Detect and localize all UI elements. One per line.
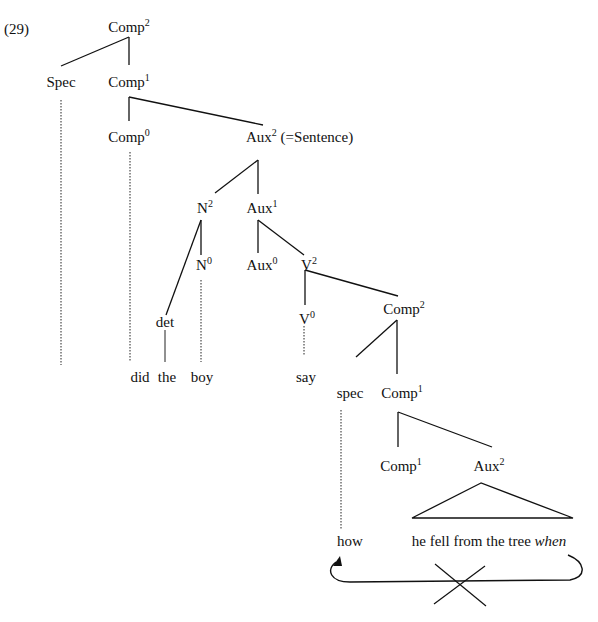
- node-label: Aux: [247, 200, 273, 216]
- bar-level: 0: [207, 255, 212, 266]
- node-label: Comp: [380, 458, 417, 474]
- arrowhead-icon: [333, 556, 342, 566]
- node-aux2-embedded: Aux2: [474, 458, 505, 474]
- node-aux2-sentence: Aux2 (=Sentence): [246, 129, 353, 145]
- node-label: Aux: [474, 458, 500, 474]
- word-did: did: [130, 369, 149, 385]
- bar-level: 0: [145, 127, 150, 138]
- bar-level: 2: [312, 255, 317, 266]
- node-aux0: Aux0: [247, 257, 278, 273]
- node-v2: V2: [301, 257, 317, 273]
- movement-arrow: [331, 555, 582, 582]
- bar-level: 1: [272, 198, 277, 209]
- word-say: say: [296, 369, 316, 385]
- node-label: Aux: [247, 257, 273, 273]
- node-note: (=Sentence): [277, 129, 353, 145]
- branch-line: [398, 412, 492, 447]
- node-det: det: [156, 314, 174, 330]
- node-label: N: [197, 200, 208, 216]
- node-label: V: [301, 257, 312, 273]
- embedded-clause-text: he fell from the tree when: [412, 533, 567, 549]
- node-label: Comp: [108, 129, 145, 145]
- node-label: Aux: [246, 129, 272, 145]
- node-n0: N0: [196, 257, 212, 273]
- bar-level: 2: [420, 299, 425, 310]
- node-label: Comp: [108, 19, 145, 35]
- node-n2: N2: [197, 200, 213, 216]
- node-spec-top: Spec: [46, 74, 75, 90]
- bar-level: 2: [208, 198, 213, 209]
- node-label: Comp: [108, 74, 145, 90]
- branch-line: [61, 37, 129, 66]
- bar-level: 0: [272, 255, 277, 266]
- syntax-tree-diagram: (29) Comp2 Spec Comp1 Comp0 Aux2 (=Sente…: [0, 0, 598, 622]
- bar-level: 1: [417, 456, 422, 467]
- word-how: how: [337, 533, 363, 549]
- example-number: (29): [4, 21, 29, 37]
- node-comp2-embedded: Comp2: [383, 301, 425, 317]
- bar-level: 1: [145, 72, 150, 83]
- node-spec-embedded: spec: [337, 385, 364, 401]
- clause-words: he fell from the tree: [412, 533, 535, 549]
- word-the: the: [158, 369, 176, 385]
- node-label: V: [299, 311, 310, 327]
- branch-line: [129, 97, 263, 125]
- branch-line: [258, 220, 304, 255]
- bar-level: 1: [418, 383, 423, 394]
- node-label: N: [196, 257, 207, 273]
- bar-level: 2: [145, 17, 150, 28]
- node-comp1-top: Comp1: [108, 74, 150, 90]
- node-v0: V0: [299, 311, 315, 327]
- node-comp1-lower: Comp1: [380, 458, 422, 474]
- node-comp0: Comp0: [108, 129, 150, 145]
- node-aux1: Aux1: [247, 200, 278, 216]
- bar-level: 0: [310, 309, 315, 320]
- node-label: Comp: [383, 301, 420, 317]
- branch-line: [356, 320, 397, 357]
- node-comp1-embedded: Comp1: [381, 385, 423, 401]
- bar-level: 2: [499, 456, 504, 467]
- branch-line: [305, 270, 398, 296]
- branch-line: [215, 160, 258, 193]
- node-comp2-root: Comp2: [108, 19, 150, 35]
- word-boy: boy: [191, 369, 214, 385]
- wh-word-when: when: [535, 533, 567, 549]
- node-label: Comp: [381, 385, 418, 401]
- clause-triangle: [412, 483, 573, 518]
